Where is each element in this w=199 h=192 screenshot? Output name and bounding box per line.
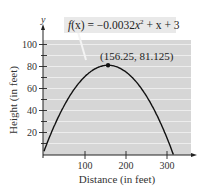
vertex-label: (156.25, 81.125) (100, 50, 174, 63)
x-tick-label: 200 (119, 160, 134, 171)
x-axis-arrow (191, 153, 197, 157)
y-axis-title: Height (in feet) (7, 66, 20, 134)
y-tick-label: 60 (27, 83, 37, 94)
vertex-point (106, 63, 110, 67)
x-tick-label: 300 (160, 160, 175, 171)
equation-label: f(x) = −0.0032x2 + x + 3 (68, 18, 180, 31)
eq-body: (x) = −0.0032 (71, 19, 135, 31)
y-axis-letter: y (40, 14, 46, 25)
x-tick-label: 100 (78, 160, 93, 171)
y-tick-label: 100 (22, 39, 37, 50)
eq-rest: + x + 3 (144, 19, 180, 31)
y-tick-label: 80 (27, 61, 37, 72)
y-tick-label: 20 (27, 127, 37, 138)
y-tick-label: 40 (27, 105, 37, 116)
x-axis-title: Distance (in feet) (79, 173, 156, 186)
